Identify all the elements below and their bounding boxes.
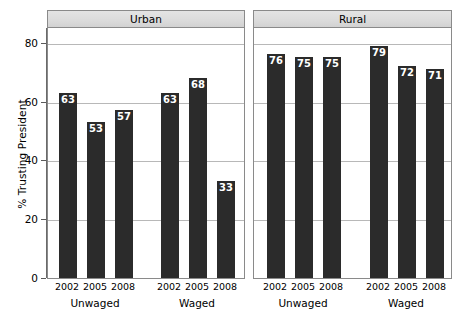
bar-value-label: 53 <box>87 124 105 134</box>
bar: 33 <box>217 181 235 278</box>
x-tick-label: 2008 <box>311 282 351 292</box>
panel-strip-rural: Rural <box>254 11 451 28</box>
y-tick-mark <box>41 219 46 220</box>
bar: 53 <box>87 122 105 278</box>
bar: 71 <box>426 69 444 278</box>
y-tick-label: 0 <box>8 273 38 284</box>
bar-value-label: 71 <box>426 71 444 81</box>
y-tick-label: 40 <box>8 155 38 166</box>
gridline <box>254 44 451 45</box>
bar: 75 <box>295 57 313 278</box>
x-group-label: Waged <box>351 298 461 309</box>
x-tick-label: 2008 <box>414 282 454 292</box>
panel-strip-label-urban: Urban <box>130 14 162 25</box>
x-tick-label: 2008 <box>103 282 143 292</box>
chart-figure: % Trusting President 020406080 Urban 635… <box>0 0 464 318</box>
y-tick-mark <box>41 102 46 103</box>
gridline <box>48 44 244 45</box>
x-group-label: Waged <box>142 298 252 309</box>
y-tick-label: 60 <box>8 97 38 108</box>
gridline <box>48 103 244 104</box>
bar-value-label: 75 <box>323 59 341 69</box>
y-tick-label: 20 <box>8 214 38 225</box>
bar-value-label: 76 <box>267 56 285 66</box>
panel-rural: Rural 767575797271 <box>253 10 452 279</box>
gridline <box>48 220 244 221</box>
gridline <box>48 161 244 162</box>
y-tick-label: 80 <box>8 38 38 49</box>
bar-value-label: 68 <box>189 80 207 90</box>
y-tick-mark <box>41 43 46 44</box>
bar: 75 <box>323 57 341 278</box>
bar-value-label: 33 <box>217 183 235 193</box>
panel-strip-label-rural: Rural <box>339 14 366 25</box>
y-tick-mark <box>41 278 46 279</box>
panel-strip-urban: Urban <box>48 11 244 28</box>
bar: 72 <box>398 66 416 278</box>
panel-urban: Urban 635357636833 <box>47 10 245 279</box>
plot-area-rural: 767575797271 <box>254 29 451 278</box>
bar: 63 <box>59 93 77 278</box>
bar-value-label: 72 <box>398 68 416 78</box>
x-group-label: Unwaged <box>248 298 358 309</box>
bar: 57 <box>115 110 133 278</box>
bar-value-label: 79 <box>370 48 388 58</box>
bar: 68 <box>189 78 207 278</box>
bar: 63 <box>161 93 179 278</box>
bar: 76 <box>267 54 285 278</box>
bar-value-label: 63 <box>161 95 179 105</box>
y-tick-mark <box>41 160 46 161</box>
bar: 79 <box>370 46 388 278</box>
bar-value-label: 63 <box>59 95 77 105</box>
plot-area-urban: 635357636833 <box>48 29 244 278</box>
bar-value-label: 75 <box>295 59 313 69</box>
x-tick-label: 2008 <box>205 282 245 292</box>
x-group-label: Unwaged <box>40 298 150 309</box>
bar-value-label: 57 <box>115 112 133 122</box>
